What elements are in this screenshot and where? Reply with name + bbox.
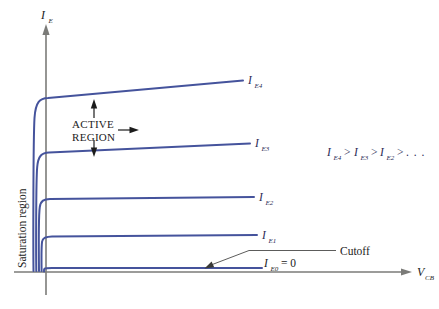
x-axis-label: V CB xyxy=(417,265,435,282)
x-axis-label-sub: CB xyxy=(425,274,435,282)
curve-ie4 xyxy=(33,81,243,272)
curve-label-ie4-base: I xyxy=(247,74,253,86)
x-axis-arrowhead xyxy=(401,268,412,275)
curve-label-ie3-base: I xyxy=(254,137,260,149)
characteristic-curves-plot: I E V CB I E4 I E3 I E2 I E1 I E0 = 0 xyxy=(0,0,439,309)
ineq-op2: > xyxy=(371,146,378,158)
curve-label-ie2: I E2 xyxy=(258,191,274,207)
active-region-right-arrowhead xyxy=(130,127,140,133)
x-axis xyxy=(14,268,412,275)
curve-label-ie1: I E1 xyxy=(261,229,276,245)
ineq-i2: I xyxy=(353,146,359,158)
curve-label-ie0-sub: E0 xyxy=(270,265,279,273)
curve-label-ie4: I E4 xyxy=(247,74,263,90)
ineq-op1: > xyxy=(344,146,351,158)
curve-ie3 xyxy=(36,144,250,272)
curve-label-ie3-sub: E3 xyxy=(261,145,270,153)
active-region-line2: REGION xyxy=(72,131,115,143)
curve-label-ie0-base: I xyxy=(263,257,269,269)
y-axis-label: I E xyxy=(40,8,54,25)
y-axis xyxy=(42,24,49,295)
curve-label-ie0-equals: = 0 xyxy=(281,257,296,269)
curve-ie1 xyxy=(41,235,257,271)
ineq-i1: I xyxy=(326,146,332,158)
ineq-s1: E4 xyxy=(333,154,342,162)
y-axis-label-sub: E xyxy=(48,17,54,25)
curve-label-ie2-base: I xyxy=(258,191,264,203)
curve-label-ie2-sub: E2 xyxy=(265,199,274,207)
ineq-i3: I xyxy=(379,146,385,158)
ineq-op3: > xyxy=(397,146,404,158)
curve-label-ie1-base: I xyxy=(261,229,267,241)
ineq-ellipsis: . . . xyxy=(406,146,425,158)
active-region-down-arrowhead xyxy=(91,148,97,158)
cutoff-label: Cutoff xyxy=(340,245,370,257)
curve-label-ie1-sub: E1 xyxy=(268,237,277,245)
saturation-region-label: Saturation region xyxy=(16,188,29,268)
y-axis-arrowhead xyxy=(42,24,49,35)
curve-ie2 xyxy=(39,197,254,271)
y-axis-label-base: I xyxy=(40,8,46,22)
saturation-region-text: Saturation region xyxy=(16,188,29,268)
curve-label-ie0: I E0 = 0 xyxy=(263,257,296,273)
curve-label-ie4-sub: E4 xyxy=(254,82,263,90)
curve-label-ie3: I E3 xyxy=(254,137,270,153)
active-region-line1: ACTIVE xyxy=(72,118,114,130)
figure-canvas: I E V CB I E4 I E3 I E2 I E1 I E0 = 0 xyxy=(0,0,439,309)
curve-ie0 xyxy=(44,268,262,272)
active-region-up-arrowhead xyxy=(91,99,97,109)
inequality-annotation: I E4 > I E3 > I E2 > . . . xyxy=(326,146,425,162)
ineq-s3: E2 xyxy=(386,154,395,162)
ineq-s2: E3 xyxy=(360,154,369,162)
